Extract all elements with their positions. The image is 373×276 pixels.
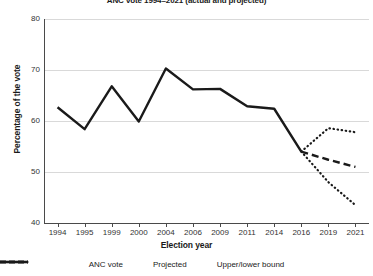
legend-label: Projected (153, 261, 187, 269)
chart-container: ANC vote 1994–2021 (actual and projected… (0, 0, 373, 276)
legend-swatch-dotted (0, 258, 28, 266)
legend-label: Upper/lower bound (217, 261, 285, 269)
legend-item[interactable]: ANC vote (89, 261, 123, 269)
legend-label: ANC vote (89, 261, 123, 269)
legend-item[interactable]: Projected (153, 261, 187, 269)
plot-area (0, 0, 373, 276)
legend-item[interactable]: Upper/lower bound (217, 261, 285, 269)
series-line-projected (301, 152, 355, 167)
series-line-anc-vote (58, 68, 302, 151)
chart-legend: ANC voteProjectedUpper/lower bound (0, 258, 373, 272)
x-axis-label: Election year (0, 240, 373, 250)
series-line-upper-bound (301, 128, 355, 151)
